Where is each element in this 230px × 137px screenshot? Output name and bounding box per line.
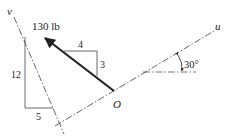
slope-run-label: 4 (78, 39, 83, 50)
origin-label: O (113, 98, 121, 110)
slope-rise-label: 3 (100, 59, 105, 70)
v-slope-run-label: 5 (36, 111, 41, 122)
angle-label: 30° (184, 59, 199, 70)
v-axis-label: v (7, 5, 12, 17)
angle-arc (178, 55, 182, 71)
force-magnitude-label: 130 lb (32, 20, 60, 32)
u-axis-label: u (215, 20, 221, 32)
v-slope-rise-label: 12 (11, 69, 21, 80)
force-diagram: 130 lb 4 3 12 5 u v O 30° (0, 0, 230, 137)
force-slope-triangle (64, 51, 97, 76)
